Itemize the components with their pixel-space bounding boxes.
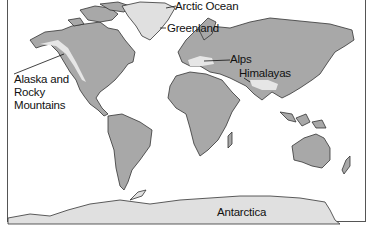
indonesia — [296, 114, 310, 126]
hudson-island — [68, 18, 84, 26]
label-alaska-rocky: Alaska and Rocky Mountains — [14, 73, 94, 112]
label-alps: Alps — [230, 53, 252, 66]
alaska-rocky-leader — [14, 54, 64, 74]
antarctica — [8, 196, 340, 224]
label-greenland: Greenland — [167, 22, 219, 35]
new-guinea — [312, 120, 326, 128]
south-america — [108, 114, 152, 190]
label-himalayas: Himalayas — [239, 67, 291, 80]
new-zealand — [342, 156, 350, 174]
southeast-asia-islands — [280, 112, 296, 122]
madagascar — [228, 132, 232, 148]
label-arctic-ocean: Arctic Ocean — [175, 0, 238, 13]
label-antarctica: Antarctica — [217, 206, 266, 219]
australia — [292, 134, 330, 168]
antarctic-peninsula — [130, 190, 146, 200]
